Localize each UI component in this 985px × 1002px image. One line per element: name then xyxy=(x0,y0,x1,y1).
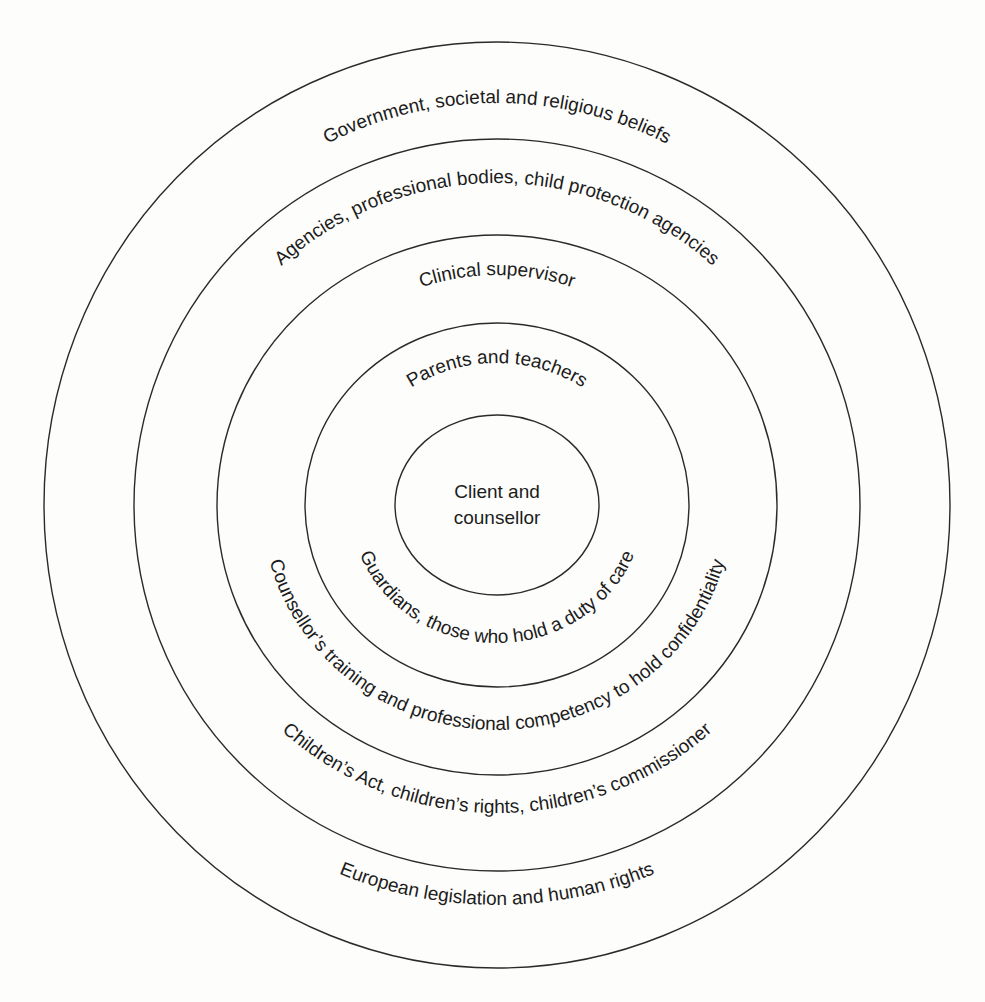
ring-inner xyxy=(395,415,599,595)
label-government: Government, societal and religious belie… xyxy=(320,86,675,147)
label-parents-teachers: Parents and teachers xyxy=(403,346,592,391)
label-clinical-supervisor: Clinical supervisor xyxy=(416,258,578,291)
label-european-legislation: European legislation and human rights xyxy=(337,858,656,909)
center-label-line-1: Client and xyxy=(454,481,540,502)
top-labels: Government, societal and religious belie… xyxy=(270,86,724,391)
ring-2 xyxy=(134,139,860,871)
concentric-circles-diagram: Government, societal and religious belie… xyxy=(0,0,985,1002)
label-agencies: Agencies, professional bodies, child pro… xyxy=(270,166,724,269)
ring-3 xyxy=(217,235,777,775)
bottom-labels: European legislation and human rights Ch… xyxy=(266,547,729,909)
center-label: Client and counsellor xyxy=(454,481,541,528)
label-guardians: Guardians, those who hold a duty of care xyxy=(356,547,638,647)
center-label-line-2: counsellor xyxy=(454,507,541,528)
